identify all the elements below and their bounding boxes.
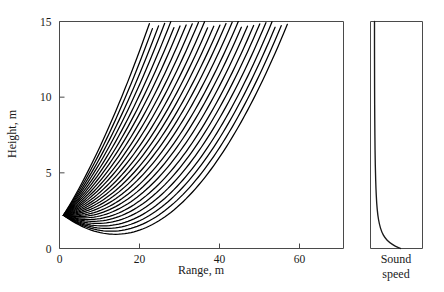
x-axis-tick-marks bbox=[60, 244, 300, 249]
y-tick-label: 10 bbox=[40, 91, 52, 103]
ray-path bbox=[64, 29, 153, 216]
main-plot-frame bbox=[60, 22, 344, 249]
figure-canvas: 0204060 051015 Range, m Height, m Sound … bbox=[0, 0, 444, 292]
y-tick-label: 15 bbox=[40, 16, 52, 28]
ray-path bbox=[64, 24, 288, 234]
main-plot-panel: 0204060 051015 Range, m Height, m bbox=[5, 16, 344, 278]
y-axis-tick-labels: 051015 bbox=[40, 16, 52, 255]
x-axis-title: Range, m bbox=[178, 263, 225, 277]
ray-path bbox=[64, 27, 276, 228]
ray-trace-figure: 0204060 051015 Range, m Height, m Sound … bbox=[0, 0, 444, 292]
x-tick-label: 20 bbox=[134, 253, 146, 265]
y-tick-label: 5 bbox=[46, 167, 52, 179]
x-tick-label: 0 bbox=[57, 253, 63, 265]
sound-speed-panel: Sound speed bbox=[371, 22, 423, 282]
x-tick-label: 60 bbox=[294, 253, 306, 265]
y-axis-title: Height, m bbox=[5, 109, 19, 158]
sound-speed-caption-line2: speed bbox=[382, 267, 409, 281]
y-axis-tick-marks bbox=[60, 22, 65, 173]
y-tick-label: 0 bbox=[46, 243, 52, 255]
sound-speed-profile-curve bbox=[375, 22, 401, 249]
ray-paths-group bbox=[64, 22, 288, 235]
sound-speed-caption-line1: Sound bbox=[381, 252, 412, 266]
